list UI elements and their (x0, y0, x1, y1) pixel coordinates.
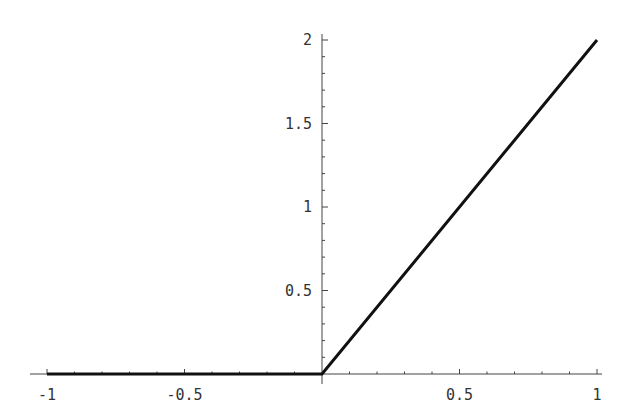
x-tick-label: 1 (592, 386, 601, 404)
y-tick-label: 0.5 (285, 282, 312, 300)
y-tick-label: 1.5 (285, 115, 312, 133)
chart: -1-0.50.510.511.52 (0, 0, 644, 417)
y-tick-label: 2 (303, 31, 312, 49)
x-tick-label: -0.5 (166, 386, 202, 404)
x-tick-label: 0.5 (446, 386, 473, 404)
tick-labels: -1-0.50.510.511.52 (38, 31, 602, 404)
y-tick-label: 1 (303, 198, 312, 216)
axes (30, 34, 602, 384)
x-tick-label: -1 (38, 386, 56, 404)
ticks (47, 40, 597, 374)
